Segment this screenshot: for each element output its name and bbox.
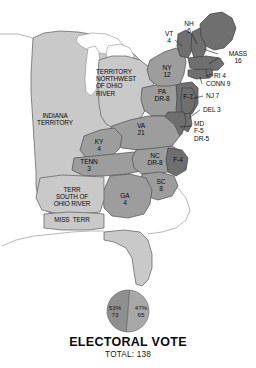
map-graphic: .terr{fill:#c9c9c9;stroke:#5a5a5e;stroke… — [0, 0, 256, 290]
coastline-north — [0, 34, 33, 38]
pie-slice-federalist — [126, 290, 149, 332]
electoral-map: .terr{fill:#c9c9c9;stroke:#5a5a5e;stroke… — [0, 0, 256, 290]
chart-total: TOTAL: 138 — [0, 350, 256, 359]
region-georgia — [103, 174, 152, 218]
electoral-vote-pie-chart: 53% 73 47% 65 — [100, 288, 156, 334]
coastline-gulf — [2, 231, 104, 246]
leader-line-massachusetts — [206, 50, 218, 54]
electoral-vote-summary: 53% 73 47% 65 ELECTORAL VOTE TOTAL: 138 — [0, 288, 256, 359]
region-north-carolina-federalist — [166, 148, 188, 176]
region-territory-south-of-ohio-river — [36, 175, 104, 214]
region-maine-district — [200, 12, 236, 50]
pie-slice-democratic-republican — [107, 290, 130, 332]
chart-caption: ELECTORAL VOTE TOTAL: 138 — [0, 335, 256, 359]
region-pennsylvania — [141, 84, 182, 116]
chart-title: ELECTORAL VOTE — [0, 335, 256, 349]
pie-graphic — [100, 288, 156, 334]
region-florida — [104, 230, 152, 286]
region-mississippi-territory — [44, 212, 104, 230]
